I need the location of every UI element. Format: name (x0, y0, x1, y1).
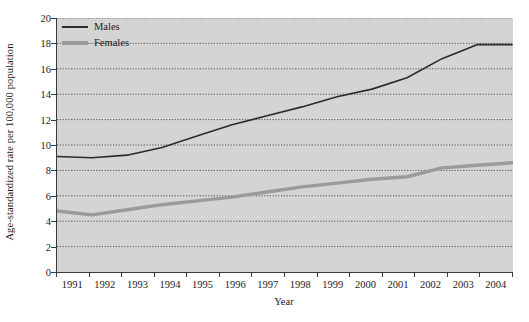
x-tick-label: 1998 (290, 279, 311, 290)
y-tick-label: 8 (18, 165, 51, 176)
plot-svg (57, 18, 513, 272)
x-tick-mark (284, 272, 285, 277)
legend-line-swatch-males (62, 26, 88, 28)
x-tick-mark (219, 272, 220, 277)
x-tick-label: 2003 (453, 279, 474, 290)
x-tick-label: 2004 (485, 279, 506, 290)
y-tick-mark (51, 94, 56, 95)
y-tick-mark (51, 43, 56, 44)
x-tick-mark (186, 272, 187, 277)
x-tick-label: 1995 (192, 279, 213, 290)
y-tick-label: 14 (18, 89, 51, 100)
chart-figure: Age-standardized rate per 100,000 popula… (0, 0, 529, 322)
y-tick-label: 6 (18, 190, 51, 201)
x-tick-label: 1996 (225, 279, 246, 290)
plot-area (56, 18, 513, 272)
x-tick-label: 1999 (322, 279, 343, 290)
y-tick-label: 2 (18, 241, 51, 252)
legend-item-males: Males (62, 20, 129, 33)
x-tick-mark (56, 272, 57, 277)
x-tick-label: 2000 (355, 279, 376, 290)
y-tick-label: 18 (18, 38, 51, 49)
x-tick-mark (479, 272, 480, 277)
legend-label-females: Females (94, 36, 129, 49)
y-tick-label: 12 (18, 114, 51, 125)
x-tick-mark (447, 272, 448, 277)
y-tick-label: 10 (18, 140, 51, 151)
x-tick-mark (121, 272, 122, 277)
y-tick-mark (51, 145, 56, 146)
chart-legend: Males Females (62, 20, 129, 49)
y-tick-mark (51, 221, 56, 222)
legend-item-females: Females (62, 36, 129, 49)
x-tick-label: 1993 (127, 279, 148, 290)
x-tick-mark (349, 272, 350, 277)
y-tick-label: 16 (18, 63, 51, 74)
y-axis-tick-labels: 02468101214161820 (18, 0, 51, 322)
x-tick-label: 1997 (257, 279, 278, 290)
x-tick-mark (89, 272, 90, 277)
x-tick-mark (154, 272, 155, 277)
y-tick-label: 0 (18, 267, 51, 278)
legend-line-swatch-females (62, 41, 88, 45)
y-axis-title: Age-standardized rate per 100,000 popula… (4, 6, 18, 278)
x-axis-title: Year (56, 296, 512, 307)
y-tick-mark (51, 247, 56, 248)
x-tick-mark (414, 272, 415, 277)
legend-label-males: Males (94, 20, 120, 33)
x-tick-label: 2001 (388, 279, 409, 290)
y-tick-label: 4 (18, 216, 51, 227)
x-tick-label: 1994 (160, 279, 181, 290)
series-line-males (57, 45, 512, 158)
x-tick-mark (382, 272, 383, 277)
data-series (57, 45, 512, 215)
x-tick-mark (317, 272, 318, 277)
y-tick-mark (51, 170, 56, 171)
gridlines (57, 18, 513, 247)
y-tick-mark (51, 120, 56, 121)
x-tick-mark (512, 272, 513, 277)
x-tick-label: 2002 (420, 279, 441, 290)
y-tick-mark (51, 69, 56, 70)
x-tick-label: 1991 (62, 279, 83, 290)
x-tick-label: 1992 (94, 279, 115, 290)
x-tick-mark (251, 272, 252, 277)
y-tick-mark (51, 18, 56, 19)
y-tick-mark (51, 196, 56, 197)
y-tick-label: 20 (18, 13, 51, 24)
